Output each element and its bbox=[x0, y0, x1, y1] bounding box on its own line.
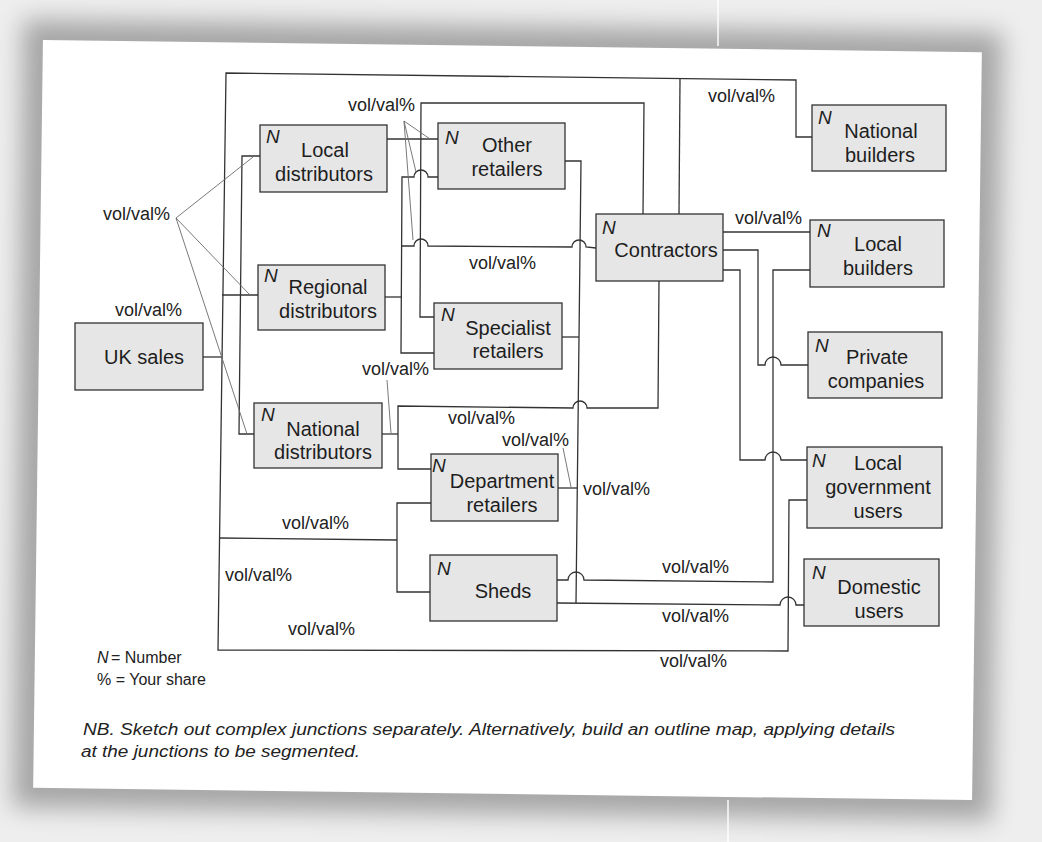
node-uk-sales: UK sales bbox=[75, 323, 203, 390]
number-symbol: N bbox=[266, 126, 280, 147]
node-label: users bbox=[855, 600, 904, 622]
flow-label: vol/val% bbox=[662, 557, 729, 577]
connector-top-to-contractors bbox=[679, 79, 680, 214]
legend-number-symbol: N bbox=[97, 649, 109, 666]
node-label: government bbox=[825, 476, 931, 498]
number-symbol: N bbox=[815, 335, 829, 356]
node-label: Regional bbox=[289, 276, 368, 298]
node-local-distributors: N Local distributors bbox=[260, 125, 387, 192]
node-label: Local bbox=[854, 233, 902, 255]
node-label: retailers bbox=[471, 158, 542, 180]
node-label: distributors bbox=[274, 441, 372, 463]
connector-regional-to-other-specialist bbox=[401, 170, 438, 353]
node-local-builders: N Local builders bbox=[810, 220, 944, 287]
node-contractors: N Contractors bbox=[596, 214, 723, 281]
pointer-dept-retailers bbox=[563, 448, 571, 487]
flow-label: vol/val% bbox=[448, 408, 515, 428]
number-symbol: N bbox=[817, 220, 831, 241]
node-label: Local bbox=[301, 139, 349, 161]
footnote: NB. Sketch out complex junctions separat… bbox=[81, 721, 895, 760]
number-symbol: N bbox=[432, 455, 446, 476]
legend-share-text: % = Your share bbox=[97, 671, 206, 688]
node-label: builders bbox=[843, 257, 913, 279]
node-label: Sheds bbox=[475, 580, 532, 602]
node-label: Contractors bbox=[614, 239, 717, 261]
node-department-retailers: N Department retailers bbox=[431, 454, 558, 521]
flow-label: vol/val% bbox=[708, 86, 775, 106]
number-symbol: N bbox=[261, 404, 275, 425]
node-local-government-users: N Local government users bbox=[807, 447, 942, 528]
number-symbol: N bbox=[812, 450, 826, 471]
node-label: builders bbox=[845, 144, 915, 166]
flow-label: vol/val% bbox=[348, 95, 415, 115]
node-label: Specialist bbox=[465, 317, 551, 339]
flow-label: vol/val% bbox=[282, 513, 349, 533]
connector-regional-to-contractors bbox=[401, 239, 596, 248]
market-map-diagram: UK sales N Local distributors N Regional… bbox=[0, 0, 1042, 842]
footnote-line-1: NB. Sketch out complex junctions separat… bbox=[83, 721, 895, 738]
connector-dept-to-sheds bbox=[397, 503, 431, 592]
connector-trunk-to-dept-sheds bbox=[219, 538, 397, 540]
node-regional-distributors: N Regional distributors bbox=[258, 265, 385, 330]
flow-label: vol/val% bbox=[469, 253, 536, 273]
flow-label: vol/val% bbox=[288, 619, 355, 639]
node-label: National bbox=[286, 418, 359, 440]
node-other-retailers: N Other retailers bbox=[438, 123, 565, 189]
connector-sheds-to-local-builders bbox=[557, 270, 810, 582]
node-label: users bbox=[854, 500, 903, 522]
node-label: retailers bbox=[472, 340, 543, 362]
legend-number-text: = Number bbox=[111, 649, 182, 666]
node-label: Domestic bbox=[837, 576, 920, 598]
number-symbol: N bbox=[602, 217, 616, 238]
flow-label: vol/val% bbox=[502, 430, 569, 450]
node-label: companies bbox=[828, 370, 925, 392]
flow-label: vol/val% bbox=[660, 651, 727, 671]
node-label: Local bbox=[854, 452, 902, 474]
legend: N = Number % = Your share bbox=[97, 649, 206, 688]
node-label: distributors bbox=[279, 300, 377, 322]
node-label: distributors bbox=[275, 163, 373, 185]
pointer-national-dist bbox=[387, 380, 391, 433]
flow-label: vol/val% bbox=[103, 204, 170, 224]
flow-label: vol/val% bbox=[583, 479, 650, 499]
node-label: retailers bbox=[466, 494, 537, 516]
flow-label: vol/val% bbox=[735, 208, 802, 228]
node-national-builders: N National builders bbox=[812, 105, 946, 171]
number-symbol: N bbox=[441, 304, 455, 325]
connector-other-retailers-trunk bbox=[565, 161, 581, 603]
number-symbol: N bbox=[812, 562, 826, 583]
node-domestic-users: N Domestic users bbox=[804, 559, 939, 626]
node-label: UK sales bbox=[104, 346, 184, 368]
node-label: National bbox=[844, 120, 917, 142]
connector-sheds-to-domestic bbox=[557, 597, 804, 605]
node-private-companies: N Private companies bbox=[808, 332, 942, 398]
node-label: Department bbox=[450, 470, 555, 492]
number-symbol: N bbox=[437, 558, 451, 579]
node-label: Private bbox=[846, 346, 908, 368]
flow-label: vol/val% bbox=[225, 565, 292, 585]
number-symbol: N bbox=[818, 107, 832, 128]
connector-contractors-to-private bbox=[723, 250, 808, 365]
footnote-line-2: at the junctions to be segmented. bbox=[81, 743, 360, 760]
node-national-distributors: N National distributors bbox=[254, 403, 382, 468]
node-label: Other bbox=[482, 134, 532, 156]
node-sheds: N Sheds bbox=[430, 555, 557, 621]
number-symbol: N bbox=[445, 127, 459, 148]
flow-label: vol/val% bbox=[362, 359, 429, 379]
flow-label: vol/val% bbox=[115, 300, 182, 320]
node-specialist-retailers: N Specialist retailers bbox=[434, 303, 562, 369]
number-symbol: N bbox=[264, 265, 278, 286]
flow-label: vol/val% bbox=[662, 606, 729, 626]
